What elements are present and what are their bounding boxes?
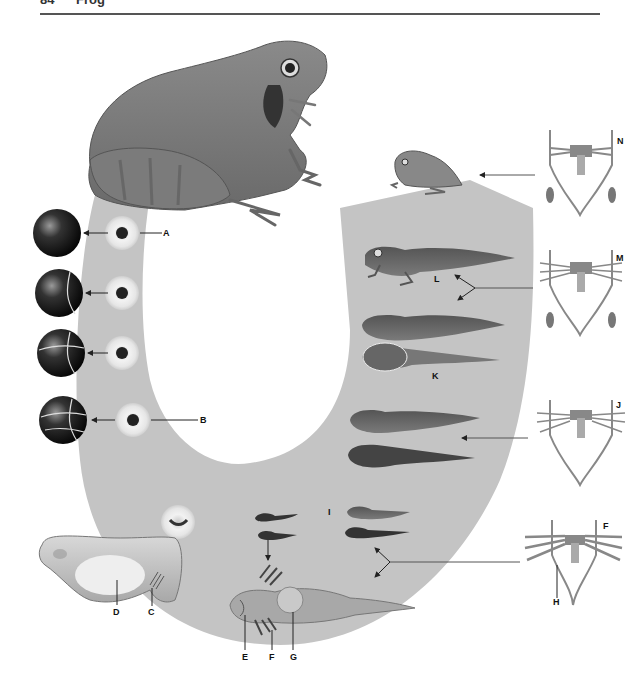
circulation-diagram-j	[537, 400, 625, 485]
label-b: B	[200, 416, 207, 425]
label-n: N	[617, 137, 624, 146]
label-f: F	[269, 653, 275, 662]
label-l: L	[434, 275, 440, 284]
label-h: H	[553, 598, 560, 607]
circulation-diagram-n	[546, 130, 616, 215]
label-m: M	[616, 254, 624, 263]
life-cycle-diagram	[0, 0, 639, 692]
label-g: G	[290, 653, 297, 662]
label-j: J	[616, 401, 621, 410]
adult-frog	[89, 41, 327, 225]
label-d: D	[113, 608, 120, 617]
label-a: A	[163, 229, 170, 238]
label-i: I	[328, 508, 331, 517]
label-e: E	[242, 653, 248, 662]
label-c: C	[148, 608, 155, 617]
circulation-diagram-m	[540, 250, 622, 335]
circulation-diagram-f-h	[525, 520, 622, 605]
label-k: K	[432, 372, 439, 381]
label-f-gills: F	[603, 522, 609, 531]
embryo	[39, 536, 181, 606]
